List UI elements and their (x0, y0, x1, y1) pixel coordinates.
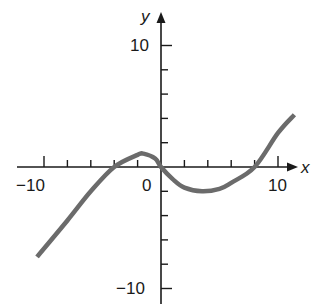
y-tick-label-pos10: 10 (130, 36, 149, 55)
y-tick-label-neg10: −10 (116, 279, 145, 298)
x-tick-label-zero: 0 (142, 176, 151, 195)
x-axis-label: x (300, 158, 310, 177)
x-tick-label-neg10: −10 (16, 176, 45, 195)
x-axis-arrow-icon (287, 163, 298, 172)
x-tick-label-pos10: 10 (268, 176, 287, 195)
y-axis-label: y (140, 7, 151, 26)
function-graph: x y −10 0 10 10 −10 (0, 0, 314, 304)
function-curve (37, 115, 294, 257)
y-axis-arrow-icon (157, 12, 166, 23)
